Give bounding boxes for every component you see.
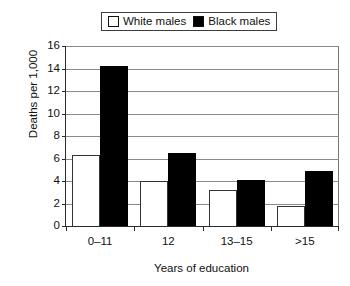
y-tick-mark [62,159,66,160]
y-axis-title: Deaths per 1,000 [27,14,39,174]
black-square-swatch-icon [193,16,204,27]
y-tick-mark [62,69,66,70]
legend-label-black-males: Black males [208,16,270,28]
y-tick-label: 10 [47,108,60,120]
legend-entry-white-males: White males [108,16,186,28]
y-tick-mark [62,46,66,47]
y-tick-mark [62,91,66,92]
x-tick-mark [271,226,272,231]
bar-white-males-2 [209,190,237,226]
bar-black-males-0 [100,66,128,226]
bar-white-males-1 [140,181,168,226]
y-tick-label: 8 [54,130,60,142]
x-category-label-2: 13–15 [221,235,253,247]
y-tick-mark [62,204,66,205]
legend-entry-black-males: Black males [193,16,270,28]
y-tick-label: 14 [47,63,60,75]
bar-black-males-1 [168,153,196,226]
bar-black-males-3 [305,171,333,226]
y-tick-label: 12 [47,85,60,97]
y-tick-mark [62,136,66,137]
x-category-label-0: 0–11 [88,235,113,247]
x-tick-mark [203,226,204,231]
y-gridline [66,46,339,47]
y-tick-mark [62,181,66,182]
bar-white-males-3 [277,206,305,226]
x-category-label-1: 12 [162,235,175,247]
y-tick-label: 6 [54,153,60,165]
y-tick-label: 0 [54,220,60,232]
white-square-swatch-icon [108,16,119,27]
bar-black-males-2 [237,180,265,226]
x-category-label-3: >15 [295,235,315,247]
legend-label-white-males: White males [123,16,186,28]
y-tick-mark [62,114,66,115]
y-tick-label: 2 [54,198,60,210]
chart-legend: White males Black males [101,12,277,31]
x-tick-mark [134,226,135,231]
plot-area: 16141210864200–111213–15>15 [65,46,339,227]
x-axis-title: Years of education [65,262,338,274]
x-tick-mark [338,226,339,231]
x-tick-mark [66,226,67,231]
bar-chart-figure: White males Black males Deaths per 1,000… [0,0,350,286]
bar-white-males-0 [72,155,100,226]
y-tick-label: 4 [54,175,60,187]
y-tick-label: 16 [47,40,60,52]
